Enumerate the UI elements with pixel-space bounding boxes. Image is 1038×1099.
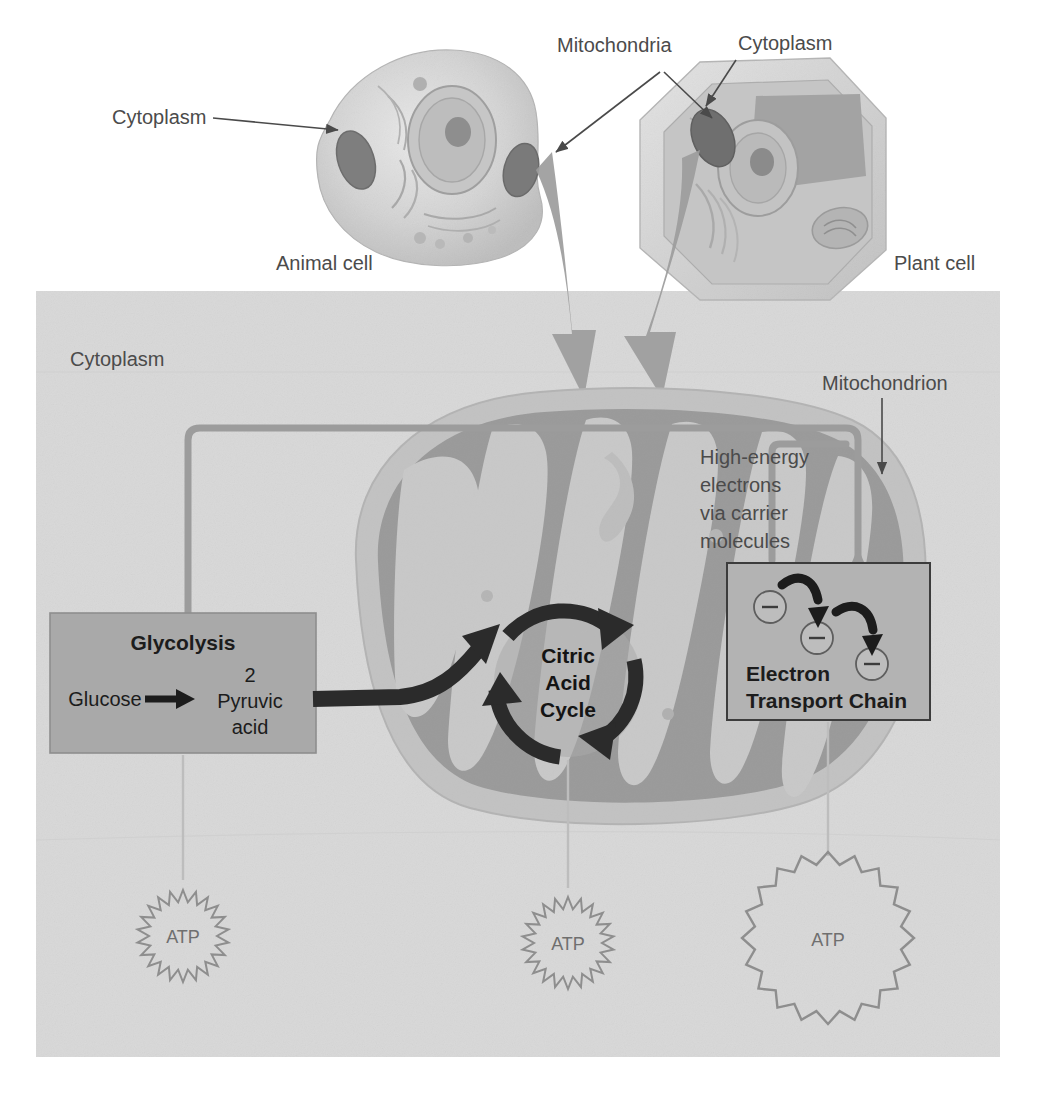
glycolysis-box[interactable]: Glycolysis Glucose 2 Pyruvic acid: [50, 613, 316, 753]
cycle-label-line1: Citric: [541, 644, 595, 667]
cytoplasm-left-label: Cytoplasm: [112, 106, 206, 128]
etc-electron-2: [801, 622, 833, 654]
glycolysis-product-line2: acid: [232, 716, 269, 738]
atp-label-cycle: ATP: [551, 934, 585, 954]
figure-canvas: Cytoplasm Mitochondria Cytoplasm Animal …: [0, 0, 1038, 1099]
glycolysis-title: Glycolysis: [130, 631, 235, 654]
electron-transport-chain-box[interactable]: Electron Transport Chain: [727, 563, 930, 720]
atp-label-etc: ATP: [811, 930, 845, 950]
animal-cell-label: Animal cell: [276, 252, 373, 274]
carrier-label-line4: molecules: [700, 530, 790, 552]
cytoplasm-right-label: Cytoplasm: [738, 32, 832, 54]
glycolysis-reactant: Glucose: [68, 688, 141, 710]
plant-cell-label: Plant cell: [894, 252, 975, 274]
mitochondria-label: Mitochondria: [557, 34, 672, 56]
mitochondrion-label: Mitochondrion: [822, 372, 948, 394]
etc-label-line2: Transport Chain: [746, 689, 907, 712]
carrier-label-line3: via carrier: [700, 502, 788, 524]
glycolysis-product-count: 2: [244, 664, 255, 686]
cytoplasm-left-leader: [213, 118, 338, 130]
cellular-respiration-diagram: Cytoplasm Mitochondria Cytoplasm Animal …: [0, 0, 1038, 1099]
plant-cell-illustration: [640, 58, 886, 300]
atp-label-glycolysis: ATP: [166, 927, 200, 947]
etc-label-line1: Electron: [746, 662, 830, 685]
animal-cell-illustration: [317, 50, 545, 266]
etc-electron-1: [754, 591, 786, 623]
glycolysis-product-line1: Pyruvic: [217, 690, 283, 712]
carrier-label-line2: electrons: [700, 474, 781, 496]
cytoplasm-panel-label: Cytoplasm: [70, 348, 164, 370]
carrier-label-line1: High-energy: [700, 446, 809, 468]
cycle-label-line3: Cycle: [540, 698, 596, 721]
cycle-label-line2: Acid: [545, 671, 591, 694]
